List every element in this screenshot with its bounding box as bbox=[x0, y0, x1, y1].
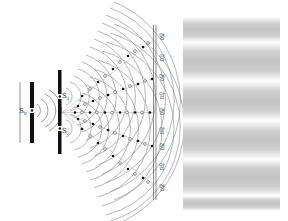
screen-label-bright: 명 bbox=[159, 107, 165, 116]
screen-label-dark: 암 bbox=[159, 54, 165, 62]
slit1-label: S1 bbox=[62, 92, 70, 101]
source-point bbox=[31, 109, 33, 111]
screen-label-dark: 암 bbox=[159, 92, 165, 100]
screen-label-bright: 명 bbox=[159, 73, 165, 82]
screen-label-bright: 명 bbox=[159, 32, 165, 41]
slit2-label: S2 bbox=[62, 127, 70, 136]
screen-label-dark: 암 bbox=[159, 127, 165, 135]
interference-wavefronts bbox=[66, 2, 184, 221]
screen-labels: 명 암 명 암 명 암 명 암 명 bbox=[159, 32, 165, 192]
fringe-pattern bbox=[183, 17, 280, 211]
source-label: S0 bbox=[19, 107, 27, 116]
double-slit-diagram: S0 S1 S2 bbox=[0, 0, 288, 221]
screen-label-dark: 암 bbox=[159, 163, 165, 171]
screen-label-bright: 명 bbox=[159, 142, 165, 151]
source-wavefronts bbox=[37, 90, 62, 131]
double-slit-barrier bbox=[58, 70, 62, 154]
screen-label-bright: 명 bbox=[159, 183, 165, 192]
